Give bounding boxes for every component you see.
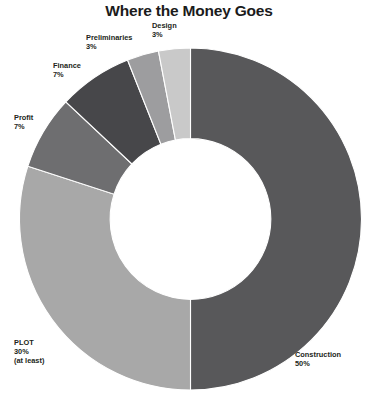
donut-slices xyxy=(20,48,362,390)
donut-svg xyxy=(0,0,378,398)
construction-annotation: Construction 50% xyxy=(295,350,341,368)
finance-annotation: Finance 7% xyxy=(53,61,81,79)
profit-annotation: Profit 7% xyxy=(14,113,33,131)
design-annotation: Design 3% xyxy=(152,21,177,39)
donut-chart: Where the Money Goes Design 3% Prelimina… xyxy=(0,0,378,398)
preliminaries-annotation: Preliminaries 3% xyxy=(86,33,132,51)
slice-construction[interactable] xyxy=(191,48,362,390)
slice-plot[interactable] xyxy=(20,166,191,390)
plot-annotation: PLOT 30% (at least) xyxy=(14,338,44,365)
